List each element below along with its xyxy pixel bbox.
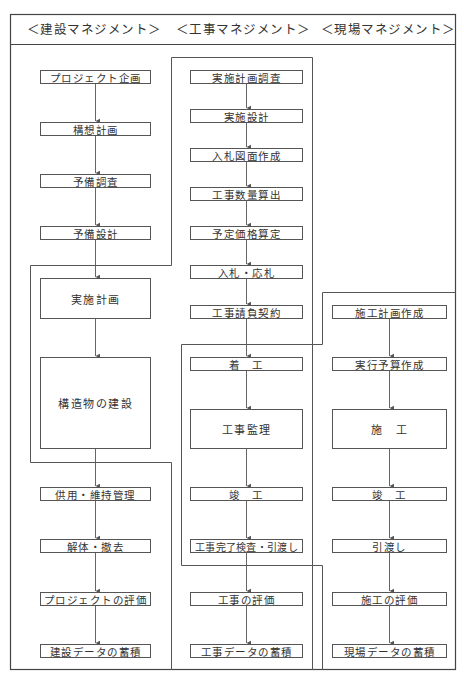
- step-concept-plan: 構想計画: [40, 122, 151, 136]
- step-works-start: 着 工: [190, 357, 303, 371]
- step-inspection-handover: 工事完了検査・引渡し: [190, 539, 303, 553]
- step-site-completion: 竣 工: [332, 487, 447, 501]
- step-works-evaluation: 工事の評価: [190, 592, 303, 606]
- header-works-management: ＜工事マネジメント＞: [168, 22, 318, 38]
- header-site-management: ＜現場マネジメント＞: [318, 22, 458, 38]
- header-construction-management: ＜建設マネジメント＞: [14, 22, 174, 38]
- step-execution-plan: 施工計画作成: [332, 305, 447, 319]
- step-quantity-calculation: 工事数量算出: [190, 187, 303, 201]
- step-implementation-plan: 実施計画: [40, 278, 151, 319]
- step-execution-evaluation: 施工の評価: [332, 592, 447, 606]
- step-project-planning: プロジェクト企画: [40, 70, 151, 84]
- site-region-boundary: [182, 293, 457, 671]
- diagram-lines: [0, 0, 464, 684]
- step-execution: 施 工: [332, 409, 447, 449]
- step-works-supervision: 工事監理: [190, 409, 303, 449]
- step-demolition: 解体・撤去: [40, 539, 151, 553]
- step-works-contract: 工事請負契約: [190, 305, 303, 319]
- step-site-data-accumulation: 現場データの蓄積: [332, 644, 447, 658]
- step-structure-construction: 構造物の建設: [40, 357, 151, 449]
- step-handover: 引渡し: [332, 539, 447, 553]
- step-preliminary-survey: 予備調査: [40, 174, 151, 188]
- step-estimated-price: 予定価格算定: [190, 226, 303, 240]
- step-project-evaluation: プロジェクトの評価: [40, 592, 151, 606]
- step-bidding: 入札・応札: [190, 265, 303, 279]
- step-construction-data-accumulation: 建設データの蓄積: [40, 644, 151, 658]
- step-detailed-design: 実施設計: [190, 109, 303, 123]
- step-execution-budget: 実行予算作成: [332, 357, 447, 371]
- step-works-completion: 竣 工: [190, 487, 303, 501]
- step-bid-drawings: 入札図面作成: [190, 148, 303, 162]
- step-operation-maintenance: 供用・維持管理: [40, 487, 151, 501]
- management-flow-diagram: ＜建設マネジメント＞ ＜工事マネジメント＞ ＜現場マネジメント＞ プロジェクト企…: [0, 0, 464, 684]
- step-works-data-accumulation: 工事データの蓄積: [190, 644, 303, 658]
- step-implementation-survey: 実施計画調査: [190, 70, 303, 84]
- step-preliminary-design: 予備設計: [40, 226, 151, 240]
